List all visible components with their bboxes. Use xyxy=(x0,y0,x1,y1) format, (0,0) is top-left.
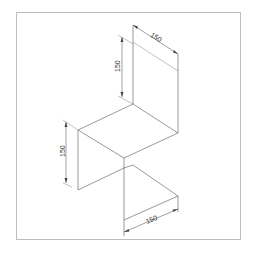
dimension-label-bottom-width: 150 xyxy=(145,214,159,225)
bottom-face xyxy=(124,165,178,220)
dimension-label-left-height: 150 xyxy=(59,145,66,157)
left-front-panel xyxy=(78,130,124,236)
drawing-frame xyxy=(17,13,241,240)
top-back-panel xyxy=(133,25,178,133)
dimension-label-top-width: 150 xyxy=(149,31,163,43)
isometric-drawing: 150 150 150 150 xyxy=(0,0,255,255)
top-face xyxy=(78,104,178,158)
dimension-label-top-height: 150 xyxy=(114,60,121,72)
